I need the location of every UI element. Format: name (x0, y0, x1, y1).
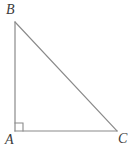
right-angle-marker-icon (15, 123, 23, 131)
vertex-label-c: C (118, 132, 127, 146)
vertex-label-a: A (5, 133, 14, 147)
triangle-diagram: B A C (0, 0, 135, 152)
side-bc-hypotenuse-line (15, 22, 117, 131)
triangle-figure-svg (0, 0, 135, 152)
vertex-label-b: B (6, 3, 15, 17)
